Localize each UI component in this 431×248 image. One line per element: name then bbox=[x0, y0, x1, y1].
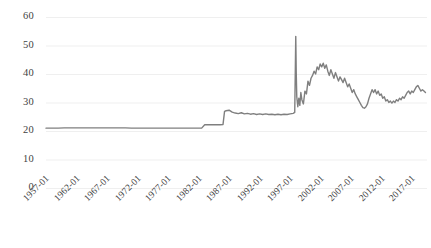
y-axis-tick-label: 40 bbox=[8, 67, 34, 78]
y-axis-tick-label: 30 bbox=[8, 96, 34, 107]
chart-container: 0102030405060 1957-011962-011967-011972-… bbox=[0, 0, 431, 248]
y-axis-tick-label: 20 bbox=[8, 124, 34, 135]
y-axis-tick-label: 10 bbox=[8, 153, 34, 164]
y-axis-tick-label: 50 bbox=[8, 39, 34, 50]
data-series-line bbox=[46, 36, 425, 128]
chart-plot-area bbox=[0, 0, 431, 248]
gridlines bbox=[46, 18, 427, 189]
y-axis-tick-label: 60 bbox=[8, 10, 34, 21]
